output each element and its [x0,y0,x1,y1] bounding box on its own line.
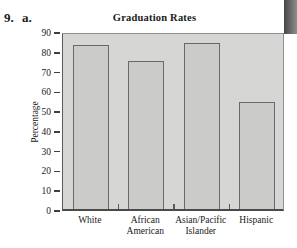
y-tick-label-20: 20 [26,165,51,177]
y-tick-label-10: 10 [26,185,51,197]
bar-asian-pacific-islander [184,43,220,209]
y-tick-mark-40 [54,131,60,133]
y-tick-mark-0 [54,210,60,212]
y-tick-label-50: 50 [26,106,51,118]
y-tick-mark-20 [54,171,60,173]
bar-white [73,45,109,209]
y-tick-mark-60 [54,92,60,94]
x-cell-tick-3 [229,204,231,209]
y-tick-label-70: 70 [26,67,51,79]
bar-hispanic [239,102,275,209]
x-label-line: Islander [159,226,243,237]
y-tick-mark-80 [54,52,60,54]
bar-african-american [128,61,164,209]
y-tick-mark-30 [54,151,60,153]
figure-label: 9. a. [4,10,32,26]
y-tick-label-90: 90 [26,27,51,39]
x-label-hispanic: Hispanic [214,215,297,226]
y-tick-mark-10 [54,190,60,192]
y-tick-label-30: 30 [26,146,51,158]
y-tick-mark-50 [54,111,60,113]
scan-artifact [284,0,297,34]
x-label-line: Hispanic [214,215,297,226]
chart-title: Graduation Rates [62,12,247,23]
y-tick-mark-90 [54,32,60,34]
plot-area [62,33,284,211]
y-tick-mark-70 [54,72,60,74]
y-tick-label-40: 40 [26,126,51,138]
x-cell-tick-1 [118,204,120,209]
y-tick-label-60: 60 [26,86,51,98]
x-cell-tick-2 [173,204,175,209]
page: 9. a. Graduation Rates Percentage 010203… [0,0,297,248]
y-tick-label-80: 80 [26,47,51,59]
